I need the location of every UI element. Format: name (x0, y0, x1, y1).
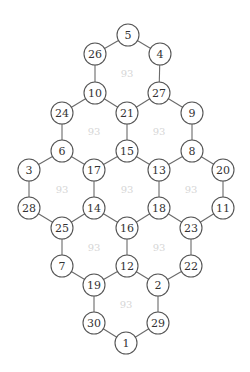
node-3: 3 (18, 159, 40, 181)
face-label: 93 (88, 126, 101, 137)
node-label: 3 (26, 164, 33, 177)
node-14: 14 (83, 197, 105, 219)
node-26: 26 (84, 43, 106, 65)
node-29: 29 (147, 312, 169, 334)
node-1: 1 (115, 332, 137, 354)
node-23: 23 (180, 217, 202, 239)
node-16: 16 (116, 217, 138, 239)
face-label: 93 (121, 184, 134, 195)
node-label: 23 (184, 222, 198, 235)
node-label: 16 (120, 222, 134, 235)
node-22: 22 (180, 255, 202, 277)
node-label: 30 (87, 317, 101, 330)
node-label: 15 (120, 145, 134, 158)
node-13: 13 (148, 159, 170, 181)
node-6: 6 (51, 140, 73, 162)
face-label: 93 (153, 242, 166, 253)
node-label: 24 (55, 107, 69, 120)
node-10: 10 (84, 82, 106, 104)
node-19: 19 (83, 274, 105, 296)
node-17: 17 (83, 159, 105, 181)
node-label: 10 (88, 87, 102, 100)
node-label: 29 (151, 317, 165, 330)
node-28: 28 (18, 197, 40, 219)
face-label: 93 (88, 242, 101, 253)
node-label: 9 (189, 107, 196, 120)
node-label: 1 (123, 337, 130, 350)
node-label: 7 (59, 260, 66, 273)
face-label: 93 (120, 299, 133, 310)
face-label: 93 (121, 68, 134, 79)
node-label: 12 (120, 260, 134, 273)
node-label: 2 (155, 279, 162, 292)
node-label: 22 (184, 260, 198, 273)
face-label: 93 (153, 126, 166, 137)
node-label: 25 (55, 222, 69, 235)
node-7: 7 (51, 255, 73, 277)
face-label: 93 (185, 184, 198, 195)
node-label: 20 (216, 164, 230, 177)
node-20: 20 (212, 159, 234, 181)
face-label: 93 (56, 184, 69, 195)
node-label: 6 (59, 145, 66, 158)
node-27: 27 (148, 82, 170, 104)
node-label: 26 (88, 48, 102, 61)
node-18: 18 (148, 197, 170, 219)
node-21: 21 (116, 102, 138, 124)
node-label: 27 (152, 87, 166, 100)
node-label: 14 (87, 202, 101, 215)
node-label: 17 (87, 164, 101, 177)
node-5: 5 (117, 24, 139, 46)
node-label: 5 (125, 29, 132, 42)
node-8: 8 (181, 140, 203, 162)
node-15: 15 (116, 140, 138, 162)
node-2: 2 (147, 274, 169, 296)
node-11: 11 (212, 197, 234, 219)
node-24: 24 (51, 102, 73, 124)
node-12: 12 (116, 255, 138, 277)
node-9: 9 (181, 102, 203, 124)
node-label: 4 (157, 48, 164, 61)
node-label: 13 (152, 164, 166, 177)
node-4: 4 (149, 43, 171, 65)
node-label: 8 (189, 145, 196, 158)
node-label: 11 (216, 202, 230, 215)
node-25: 25 (51, 217, 73, 239)
node-label: 18 (152, 202, 166, 215)
node-label: 28 (22, 202, 36, 215)
hexagonal-graph-diagram: 939393939393939393 526410272421961583171… (0, 0, 250, 372)
node-label: 21 (120, 107, 134, 120)
node-30: 30 (83, 312, 105, 334)
node-label: 19 (87, 279, 101, 292)
